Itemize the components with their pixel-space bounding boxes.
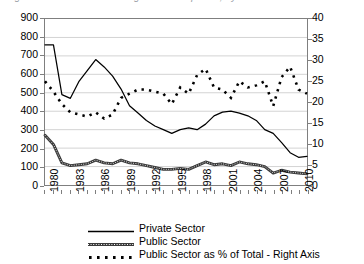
y-axis-left-tick-label: 100	[0, 161, 38, 171]
y-axis-right-tick-label: 10	[312, 138, 352, 148]
x-axis-tick-label: 1983	[74, 169, 86, 192]
x-axis-tick-label: 1989	[125, 169, 137, 192]
chart-area: 0100200300400500600700800900051015202530…	[0, 14, 364, 190]
legend-label: Public Sector as % of Total - Right Axis	[139, 249, 320, 260]
y-axis-right-tick-label: 35	[312, 33, 352, 43]
legend-item-3: Public Sector as % of Total - Right Axis	[88, 248, 320, 261]
y-axis-left-tick	[40, 111, 44, 112]
legend-label: Public Sector	[139, 236, 201, 247]
y-axis-left-tick-label: 500	[0, 87, 38, 97]
y-axis-left-tick-label: 900	[0, 12, 38, 22]
x-axis-tick-label: 1980	[48, 169, 60, 192]
y-axis-left-tick	[40, 93, 44, 94]
legend-swatch-solid	[88, 223, 134, 234]
y-axis-right-tick-label: 20	[312, 96, 352, 106]
y-axis-right-tick-label: 0	[312, 180, 352, 190]
y-axis-left-tick-label: 400	[0, 105, 38, 115]
y-axis-left-tick-label: 300	[0, 124, 38, 134]
x-axis-labels: 1980198319861989199219951998200120042007…	[0, 190, 364, 224]
y-axis-left-tick	[40, 37, 44, 38]
y-axis-right-tick-label: 25	[312, 75, 352, 85]
y-axis-right-tick	[308, 60, 312, 61]
legend-swatch-dashed	[88, 249, 134, 260]
y-axis-left-tick	[40, 55, 44, 56]
y-axis-left-tick	[40, 130, 44, 131]
data-series-layer	[45, 19, 307, 185]
plot-area	[44, 18, 308, 186]
y-axis-left-tick-label: 800	[0, 31, 38, 41]
chart-figure: Figure 2. Number of Housing Units Comple…	[0, 0, 364, 264]
y-axis-left-tick	[40, 186, 44, 187]
y-axis-right-tick	[308, 102, 312, 103]
y-axis-right-tick-label: 30	[312, 54, 352, 64]
x-axis-tick-label: 2004	[252, 169, 264, 192]
x-axis-tick-label: 2001	[227, 169, 239, 192]
x-axis-tick-label: 2010	[303, 169, 315, 192]
figure-title-text: Figure 2. Number of Housing Units Comple…	[6, 0, 270, 2]
y-axis-right-tick-label: 15	[312, 117, 352, 127]
y-axis-right-tick	[308, 39, 312, 40]
x-axis-tick-label: 2007	[278, 169, 290, 192]
y-axis-right-tick-label: 40	[312, 12, 352, 22]
y-axis-left-tick	[40, 167, 44, 168]
y-axis-right-tick	[308, 81, 312, 82]
y-axis-right-tick	[308, 165, 312, 166]
y-axis-left-tick-label: 700	[0, 49, 38, 59]
x-axis-tick-label: 1998	[201, 169, 213, 192]
figure-title-cropped: Figure 2. Number of Housing Units Comple…	[0, 0, 364, 12]
y-axis-right-tick-label: 5	[312, 159, 352, 169]
y-axis-left-tick	[40, 149, 44, 150]
legend-swatch-textured	[88, 236, 134, 247]
legend-item-1: Private Sector	[88, 222, 205, 235]
chart-legend: Private SectorPublic SectorPublic Sector…	[0, 222, 364, 264]
y-axis-left-tick-label: 0	[0, 180, 38, 190]
y-axis-right-tick	[308, 18, 312, 19]
y-axis-left-tick	[40, 74, 44, 75]
y-axis-right-tick	[308, 123, 312, 124]
y-axis-left-tick-label: 600	[0, 68, 38, 78]
legend-label: Private Sector	[139, 223, 205, 234]
x-axis-tick-label: 1995	[176, 169, 188, 192]
y-axis-left-tick-label: 200	[0, 143, 38, 153]
x-axis-tick-label: 1992	[150, 169, 162, 192]
x-axis-tick-label: 1986	[99, 169, 111, 192]
y-axis-right-tick	[308, 144, 312, 145]
legend-item-2: Public Sector	[88, 235, 201, 248]
y-axis-left-tick	[40, 18, 44, 19]
